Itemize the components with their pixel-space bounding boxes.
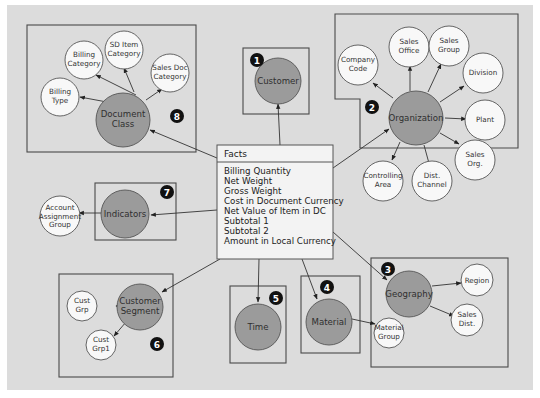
- fact-item: Subtotal 1: [224, 216, 269, 226]
- attribute-label: CustGrp: [74, 296, 90, 314]
- attribute-label: Plant: [476, 115, 494, 124]
- attribute-label: Region: [465, 276, 490, 285]
- badge-2: 2: [365, 100, 379, 114]
- attribute-label: SalesOffice: [399, 37, 421, 55]
- svg-text:7: 7: [164, 188, 170, 198]
- attribute-label: Division: [469, 68, 497, 77]
- dimension-organization[interactable]: Organization: [389, 91, 444, 145]
- attribute-label: CustGrp1: [92, 335, 110, 353]
- attribute-dist-channel[interactable]: Dist.Channel: [412, 161, 452, 201]
- attribute-company-code[interactable]: CompanyCode: [338, 45, 378, 85]
- badge-5: 5: [269, 291, 283, 305]
- attribute-cust-grp[interactable]: CustGrp: [67, 291, 97, 321]
- svg-text:3: 3: [385, 265, 391, 275]
- fact-item: Gross Weight: [224, 186, 282, 196]
- badge-6: 6: [150, 337, 164, 351]
- star-schema-diagram: BillingType BillingCategory SD ItemCateg…: [0, 0, 540, 398]
- fact-item: Net Weight: [224, 176, 273, 186]
- attribute-plant[interactable]: Plant: [465, 100, 505, 140]
- svg-text:1: 1: [254, 56, 260, 66]
- attribute-sales-org[interactable]: SalesOrg.: [455, 140, 495, 180]
- svg-text:2: 2: [369, 103, 375, 113]
- dimension-indicators[interactable]: Indicators: [101, 190, 149, 238]
- dimension-geography[interactable]: Geography: [385, 271, 432, 317]
- attribute-label: Sales DocCategory: [152, 63, 187, 81]
- badge-3: 3: [381, 262, 395, 276]
- facts-table[interactable]: Facts Billing Quantity Net Weight Gross …: [217, 145, 344, 259]
- attribute-controlling-area[interactable]: ControllingArea: [363, 161, 403, 201]
- svg-text:8: 8: [174, 112, 180, 122]
- dimension-label: Organization: [389, 113, 444, 123]
- dimension-label: Material: [312, 317, 347, 327]
- dimension-label: CustomerSegment: [119, 296, 161, 316]
- attribute-label: BillingType: [49, 87, 71, 105]
- fact-item: Cost in Document Currency: [224, 196, 344, 206]
- attribute-division[interactable]: Division: [463, 53, 503, 93]
- dimension-label: Customer: [257, 76, 299, 86]
- attribute-sales-doc-category[interactable]: Sales DocCategory: [151, 54, 189, 92]
- badge-4: 4: [320, 280, 334, 294]
- dimension-time[interactable]: Time: [235, 304, 281, 350]
- badge-7: 7: [160, 185, 174, 199]
- fact-item: Net Value of Item in DC: [224, 206, 326, 216]
- fact-item: Subtotal 2: [224, 226, 269, 236]
- dimension-customer-segment[interactable]: CustomerSegment: [117, 284, 163, 330]
- dimension-document-class[interactable]: DocumentClass: [96, 93, 150, 147]
- badge-8: 8: [170, 109, 184, 123]
- attribute-label: SalesDist.: [457, 310, 476, 328]
- fact-item: Billing Quantity: [224, 166, 291, 176]
- svg-text:6: 6: [154, 340, 160, 350]
- dimension-material[interactable]: Material: [306, 299, 352, 345]
- svg-text:4: 4: [324, 283, 330, 293]
- dimension-label: Geography: [385, 289, 432, 299]
- attribute-label: SalesOrg.: [465, 150, 484, 168]
- dimension-label: Time: [246, 322, 268, 332]
- attribute-material-group[interactable]: MaterialGroup: [374, 318, 404, 348]
- attribute-sd-item-category[interactable]: SD ItemCategory: [105, 31, 143, 69]
- fact-item: Amount in Local Currency: [224, 236, 336, 246]
- attribute-cust-grp1[interactable]: CustGrp1: [86, 330, 116, 360]
- svg-text:5: 5: [273, 294, 279, 304]
- attribute-label: MaterialGroup: [374, 323, 403, 341]
- attribute-label: SalesGroup: [438, 36, 460, 54]
- facts-title: Facts: [224, 149, 247, 159]
- attribute-sales-dist[interactable]: SalesDist.: [451, 304, 483, 336]
- attribute-billing-category[interactable]: BillingCategory: [65, 41, 103, 79]
- attribute-billing-type[interactable]: BillingType: [41, 78, 79, 116]
- attribute-label: SD ItemCategory: [108, 40, 142, 58]
- badge-1: 1: [250, 53, 264, 67]
- dimension-label: Indicators: [104, 209, 147, 219]
- attribute-region[interactable]: Region: [461, 264, 493, 296]
- attribute-sales-office[interactable]: SalesOffice: [389, 27, 429, 67]
- attribute-sales-group[interactable]: SalesGroup: [429, 26, 469, 66]
